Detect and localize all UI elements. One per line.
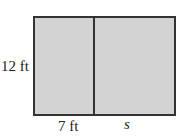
left-width-label: 7 ft xyxy=(58,118,78,135)
divider-line xyxy=(93,16,95,116)
outer-rectangle xyxy=(33,16,176,116)
right-width-label: s xyxy=(124,116,130,133)
height-label: 12 ft xyxy=(1,58,29,75)
